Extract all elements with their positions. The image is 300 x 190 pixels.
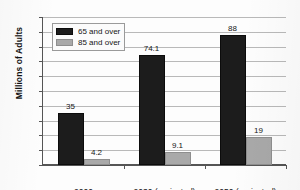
bar-value-label: 19 bbox=[240, 126, 278, 135]
y-tick-mark bbox=[39, 17, 43, 18]
gridline bbox=[43, 17, 286, 18]
bar-value-label: 74.1 bbox=[133, 44, 171, 53]
legend-label: 85 and over bbox=[78, 38, 120, 47]
y-tick-mark bbox=[39, 76, 43, 77]
x-category-label: 2000 bbox=[43, 187, 124, 190]
y-tick-mark bbox=[39, 121, 43, 122]
y-tick-mark bbox=[39, 91, 43, 92]
bar bbox=[84, 159, 110, 165]
x-tick-mark bbox=[205, 165, 206, 169]
bar bbox=[165, 152, 191, 165]
legend-label: 65 and over bbox=[78, 27, 120, 36]
bar-chart: Millions of Adults 010203040506070809010… bbox=[0, 0, 300, 190]
x-tick-mark bbox=[124, 165, 125, 169]
chart-legend: 65 and over 85 and over bbox=[52, 23, 125, 51]
y-tick-mark bbox=[39, 47, 43, 48]
bar bbox=[246, 137, 272, 165]
x-tick-mark bbox=[286, 165, 287, 169]
legend-item-85-and-over: 85 and over bbox=[56, 37, 120, 48]
bar-value-label: 88 bbox=[214, 24, 252, 33]
gridline bbox=[43, 76, 286, 77]
y-tick-mark bbox=[39, 150, 43, 151]
y-tick-mark bbox=[39, 165, 43, 166]
legend-swatch-gray-icon bbox=[56, 39, 73, 46]
y-tick-mark bbox=[39, 106, 43, 107]
y-tick-mark bbox=[39, 61, 43, 62]
legend-item-65-and-over: 65 and over bbox=[56, 26, 120, 37]
legend-swatch-black-icon bbox=[56, 28, 73, 35]
gridline bbox=[43, 91, 286, 92]
gridline bbox=[43, 61, 286, 62]
y-axis-title: Millions of Adults bbox=[14, 13, 24, 113]
bar-value-label: 35 bbox=[52, 102, 90, 111]
bar-value-label: 9.1 bbox=[159, 141, 197, 150]
x-category-label: 2030 (projected) bbox=[124, 187, 205, 190]
x-category-label: 2050 (projected) bbox=[205, 187, 286, 190]
y-tick-mark bbox=[39, 135, 43, 136]
bar-value-label: 4.2 bbox=[78, 148, 116, 157]
bar bbox=[58, 113, 84, 165]
bar bbox=[220, 35, 246, 165]
y-tick-mark bbox=[39, 32, 43, 33]
